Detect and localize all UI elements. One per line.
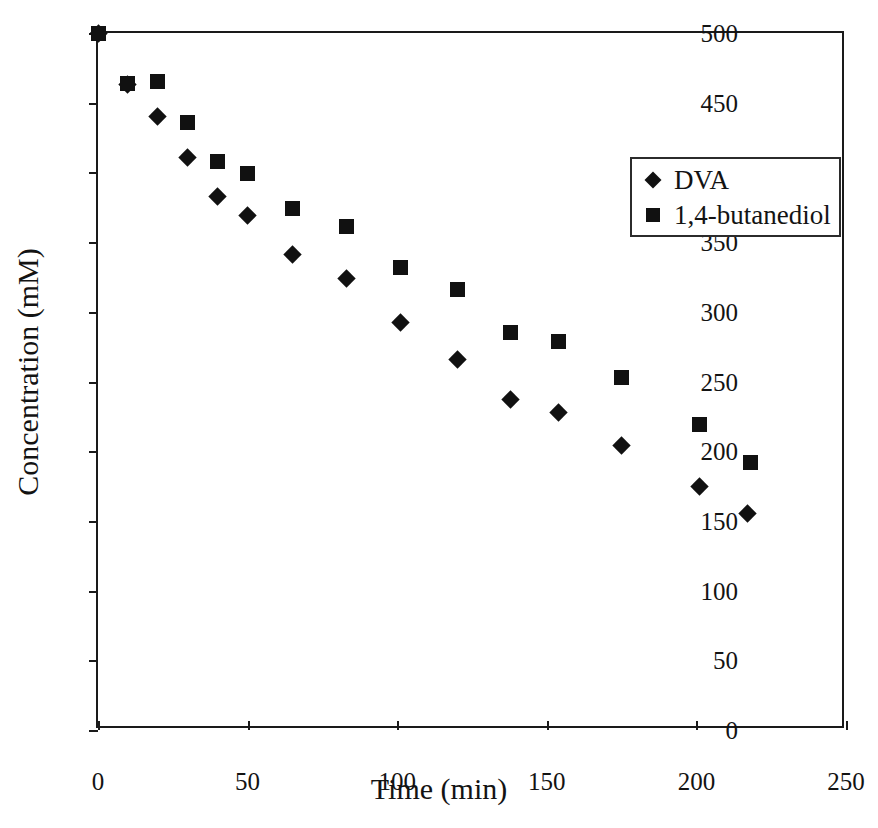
- data-point-diamond: [448, 350, 466, 368]
- data-point-square: [393, 260, 408, 275]
- x-tick-label: 50: [235, 769, 260, 794]
- legend-label: 1,4-butanediol: [674, 202, 831, 229]
- x-tick-label: 0: [92, 769, 105, 794]
- data-point-square: [120, 76, 135, 91]
- x-tick-mark: [846, 721, 848, 730]
- y-tick-label: 150: [701, 509, 739, 534]
- y-tick-label: 50: [713, 648, 738, 673]
- data-point-square: [339, 219, 354, 234]
- y-tick-mark: [89, 242, 98, 244]
- y-tick-label: 250: [701, 370, 739, 395]
- chart-page: Concentration (mM) Time (min) 0501001502…: [0, 0, 878, 828]
- data-point-square: [503, 325, 518, 340]
- x-tick-label: 150: [528, 769, 566, 794]
- data-point-diamond: [149, 107, 167, 125]
- data-point-diamond: [337, 269, 355, 287]
- data-point-square: [743, 455, 758, 470]
- x-tick-mark: [397, 721, 399, 730]
- legend-label: DVA: [674, 167, 729, 194]
- data-point-square: [91, 26, 106, 41]
- y-tick-mark: [89, 660, 98, 662]
- data-point-square: [692, 417, 707, 432]
- data-point-diamond: [391, 314, 409, 332]
- legend-entry-butanediol: 1,4-butanediol: [646, 200, 831, 230]
- x-tick-label: 100: [378, 769, 416, 794]
- x-tick-mark: [547, 721, 549, 730]
- data-point-diamond: [502, 390, 520, 408]
- y-tick-mark: [89, 730, 98, 732]
- x-tick-mark: [98, 721, 100, 730]
- x-tick-mark: [248, 721, 250, 730]
- y-tick-label: 200: [701, 439, 739, 464]
- data-point-diamond: [738, 505, 756, 523]
- data-point-diamond: [238, 206, 256, 224]
- diamond-marker-icon: [645, 172, 662, 189]
- y-tick-label: 500: [701, 21, 739, 46]
- data-point-square: [614, 370, 629, 385]
- data-point-square: [285, 201, 300, 216]
- data-point-diamond: [550, 403, 568, 421]
- y-tick-mark: [89, 312, 98, 314]
- x-axis-title: Time (min): [0, 772, 878, 806]
- y-tick-label: 0: [726, 718, 739, 743]
- y-axis-title: Concentration (mM): [11, 122, 45, 622]
- y-tick-mark: [89, 451, 98, 453]
- y-tick-mark: [89, 521, 98, 523]
- y-tick-mark: [89, 382, 98, 384]
- y-tick-label: 450: [701, 91, 739, 116]
- data-point-diamond: [208, 187, 226, 205]
- data-point-diamond: [690, 477, 708, 495]
- y-tick-mark: [89, 103, 98, 105]
- legend-entry-dva: DVA: [646, 165, 729, 195]
- data-point-square: [210, 154, 225, 169]
- data-point-diamond: [612, 436, 630, 454]
- y-tick-label: 300: [701, 300, 739, 325]
- data-point-square: [150, 74, 165, 89]
- data-point-diamond: [283, 245, 301, 263]
- data-point-square: [450, 282, 465, 297]
- y-tick-mark: [89, 172, 98, 174]
- x-tick-label: 250: [827, 769, 865, 794]
- data-point-square: [180, 115, 195, 130]
- y-tick-label: 100: [701, 579, 739, 604]
- plot-area: 050100150200250300350400450500 050100150…: [96, 31, 844, 728]
- x-tick-label: 200: [678, 769, 716, 794]
- y-tick-mark: [89, 591, 98, 593]
- data-point-square: [240, 166, 255, 181]
- square-marker-icon: [646, 208, 660, 222]
- x-tick-mark: [696, 721, 698, 730]
- chart-legend: DVA 1,4-butanediol: [630, 157, 841, 237]
- data-point-diamond: [179, 148, 197, 166]
- data-point-square: [551, 334, 566, 349]
